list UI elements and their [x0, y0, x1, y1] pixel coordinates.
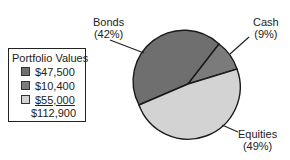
swatch-cash	[21, 81, 30, 90]
label-cash: Cash (9%)	[253, 16, 279, 40]
legend-row-bonds: $47,500	[21, 65, 75, 78]
legend-value-cash: $10,400	[35, 80, 75, 92]
label-bonds-pct: (42%)	[93, 28, 124, 40]
leader-bonds	[110, 40, 144, 53]
swatch-bonds	[21, 67, 30, 76]
label-bonds: Bonds (42%)	[93, 16, 124, 40]
label-cash-pct: (9%)	[253, 28, 279, 40]
legend-value-equities: $55,000	[35, 94, 75, 106]
label-bonds-name: Bonds	[93, 16, 124, 28]
leader-equities	[222, 125, 238, 132]
legend: Portfolio Values $47,500 $10,400 $55,000…	[8, 48, 86, 122]
label-cash-name: Cash	[253, 16, 279, 28]
label-equities: Equities (49%)	[238, 128, 277, 152]
label-equities-name: Equities	[238, 128, 277, 140]
leader-cash	[230, 37, 249, 54]
label-equities-pct: (49%)	[238, 140, 277, 152]
legend-row-equities: $55,000	[21, 93, 75, 106]
legend-title: Portfolio Values	[12, 52, 88, 64]
swatch-equities	[21, 95, 30, 104]
legend-row-cash: $10,400	[21, 79, 75, 92]
legend-value-bonds: $47,500	[35, 66, 75, 78]
legend-total: $112,900	[31, 107, 76, 119]
